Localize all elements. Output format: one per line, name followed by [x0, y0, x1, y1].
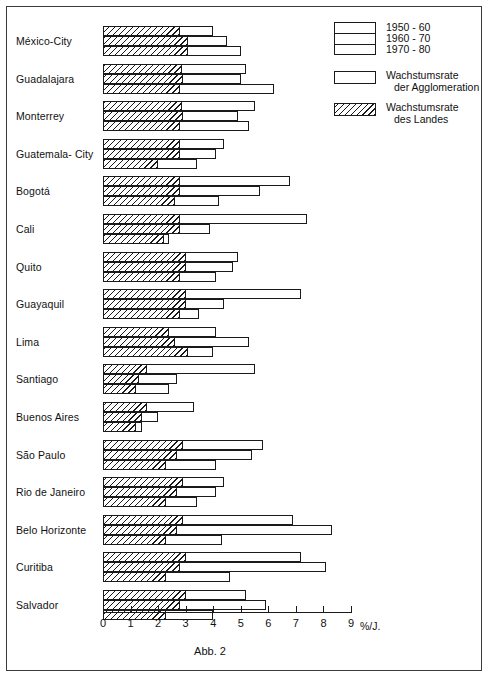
bar-country [103, 176, 180, 186]
x-axis-tick-label: 1 [121, 617, 141, 629]
x-axis-tick-label: 4 [203, 617, 223, 629]
bar-country [103, 412, 142, 422]
x-axis-tick-label: 2 [148, 617, 168, 629]
x-axis-tick [131, 606, 132, 613]
category-label: Guadalajara [16, 73, 100, 85]
bar-country [103, 84, 180, 94]
bar-country [103, 309, 180, 319]
category-label: Guayaquil [16, 298, 100, 310]
bar-country [103, 477, 183, 487]
category-label: Rio de Janeiro [16, 486, 100, 498]
bar-country [103, 36, 188, 46]
bar-country [103, 450, 177, 460]
bar-country [103, 74, 183, 84]
x-axis-tick-label: 8 [313, 617, 333, 629]
x-axis-tick-label: 3 [176, 617, 196, 629]
bar-country [103, 440, 183, 450]
bar-country [103, 562, 180, 572]
x-axis-tick [351, 606, 352, 613]
bar-country [103, 460, 166, 470]
bar-country [103, 234, 164, 244]
bar-country [103, 149, 180, 159]
bar-country [103, 26, 180, 36]
bar-country [103, 590, 186, 600]
category-label: Cali [16, 223, 100, 235]
legend-label-country-line2: des Landes [386, 113, 459, 125]
legend-period-1970-80: 1970 - 80 [386, 43, 430, 55]
bar-country [103, 374, 139, 384]
x-axis-tick [213, 606, 214, 613]
bar-country [103, 111, 183, 121]
bar-country [103, 535, 166, 545]
bar-country [103, 552, 186, 562]
category-label: Salvador [16, 599, 100, 611]
category-label: Monterrey [16, 110, 100, 122]
category-label: Buenos Aires [16, 411, 100, 423]
x-axis-tick-label: 5 [231, 617, 251, 629]
bar-country [103, 422, 136, 432]
bar-country [103, 64, 182, 74]
legend-label-agglomeration-line2: der Agglomeration [386, 81, 479, 93]
bar-country [103, 101, 182, 111]
bar-country [103, 600, 180, 610]
bar-country [103, 224, 180, 234]
bar-country [103, 262, 186, 272]
category-label: Santiago [16, 373, 100, 385]
bar-country [103, 364, 147, 374]
legend-period-swatch-stack [334, 22, 376, 55]
bar-country [103, 159, 158, 169]
bar-country [103, 402, 147, 412]
x-axis-tick [158, 606, 159, 613]
bar-country [103, 384, 136, 394]
bar-country [103, 299, 186, 309]
x-axis-unit-label: %/J. [360, 620, 380, 632]
bar-country [103, 487, 177, 497]
figure-container: México-CityGuadalajaraMonterreyGuatemala… [0, 0, 488, 677]
category-label: São Paulo [16, 449, 100, 461]
legend-label-agglomeration: Wachstumsrate der Agglomeration [386, 69, 479, 93]
x-axis-tick-label: 7 [286, 617, 306, 629]
bar-country [103, 525, 177, 535]
legend-label-country-line1: Wachstumsrate [386, 101, 459, 113]
bar-country [103, 572, 166, 582]
bar-country [103, 337, 175, 347]
legend-swatch-hatched [334, 103, 376, 116]
x-axis-tick [103, 606, 104, 613]
category-label: Quito [16, 261, 100, 273]
x-axis [103, 612, 351, 613]
legend-label-country: Wachstumsrate des Landes [386, 101, 459, 125]
legend-swatch-open [334, 71, 376, 84]
category-label: Belo Horizonte [16, 524, 100, 536]
bar-country [103, 186, 180, 196]
category-label: Lima [16, 336, 100, 348]
bar-country [103, 497, 166, 507]
bar-country [103, 515, 183, 525]
legend-label-agglomeration-line1: Wachstumsrate [386, 69, 459, 81]
category-label: Guatemala- City [16, 148, 100, 160]
x-axis-tick-label: 0 [93, 617, 113, 629]
bar-country [103, 252, 186, 262]
bar-country [103, 272, 180, 282]
x-axis-tick-label: 9 [341, 617, 361, 629]
x-axis-tick [323, 606, 324, 613]
x-axis-tick [268, 606, 269, 613]
x-axis-tick [241, 606, 242, 613]
bar-country [103, 46, 188, 56]
figure-caption: Abb. 2 [0, 645, 420, 657]
x-axis-tick-label: 6 [258, 617, 278, 629]
bar-country [103, 327, 169, 337]
bar-country [103, 214, 180, 224]
category-label: Bogotá [16, 185, 100, 197]
bar-country [103, 139, 180, 149]
bar-country [103, 121, 180, 131]
category-label: México-City [16, 35, 100, 47]
x-axis-tick [186, 606, 187, 613]
x-axis-tick [296, 606, 297, 613]
category-label: Curitiba [16, 561, 100, 573]
bar-country [103, 196, 175, 206]
bar-country [103, 347, 188, 357]
bar-country [103, 289, 186, 299]
